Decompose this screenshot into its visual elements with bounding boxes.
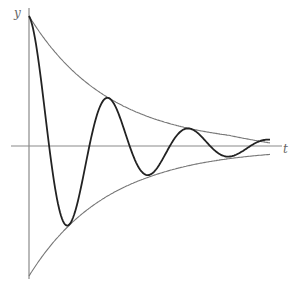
lower-envelope-curve — [29, 154, 270, 276]
t-axis-label: t — [283, 142, 288, 156]
damped-oscillation-curve — [29, 16, 270, 226]
damped-oscillation-diagram: y t — [0, 0, 299, 291]
upper-envelope-curve — [29, 16, 270, 143]
y-axis-label: y — [13, 6, 21, 20]
